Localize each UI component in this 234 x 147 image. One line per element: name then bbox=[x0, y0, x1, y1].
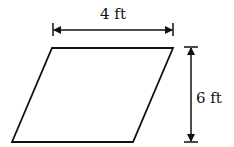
parallelogram-shape bbox=[12, 48, 173, 142]
parallelogram-diagram: 4 ft 6 ft bbox=[0, 0, 234, 147]
base-dimension: 4 ft bbox=[53, 5, 173, 36]
height-label: 6 ft bbox=[196, 89, 222, 107]
height-dimension: 6 ft bbox=[184, 47, 222, 142]
base-label: 4 ft bbox=[100, 5, 126, 23]
